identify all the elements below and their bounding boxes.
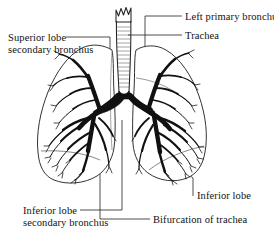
label-line-1: Left primary bronchus <box>185 11 274 22</box>
label-line-1: Inferior lobe <box>197 190 251 201</box>
trachea-shape <box>116 8 131 93</box>
label-left-primary-bronchus: Left primary bronchus <box>185 11 274 23</box>
label-line-2: secondary bronchus <box>8 44 93 56</box>
label-superior-lobe-secondary-bronchus: Superior lobe secondary bronchus <box>8 32 93 55</box>
bronchial-tree-figure: Superior lobe secondary bronchus Left pr… <box>0 0 274 240</box>
label-bifurcation-of-trachea: Bifurcation of trachea <box>153 214 247 226</box>
label-inferior-lobe-secondary-bronchus: Inferior lobe secondary bronchus <box>23 205 108 228</box>
label-inferior-lobe: Inferior lobe <box>197 190 251 202</box>
tracheal-rings <box>117 27 131 87</box>
label-line-2: secondary bronchus <box>23 217 108 229</box>
label-trachea: Trachea <box>185 30 219 42</box>
label-line-1: Bifurcation of trachea <box>153 214 247 225</box>
label-line-1: Trachea <box>185 30 219 41</box>
label-line-1: Superior lobe <box>8 32 66 43</box>
left-lung-outline <box>37 45 115 183</box>
label-line-1: Inferior lobe <box>23 205 77 216</box>
